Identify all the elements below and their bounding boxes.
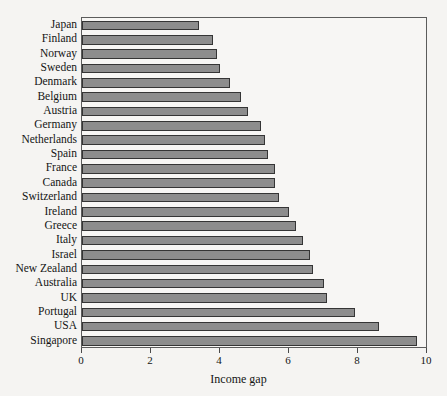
category-label: Ireland xyxy=(0,204,77,218)
x-axis-tick-label: 4 xyxy=(216,354,222,366)
category-label: Norway xyxy=(0,46,77,60)
x-axis-tick-label: 6 xyxy=(285,354,291,366)
category-label: Portugal xyxy=(0,304,77,318)
category-label: Switzerland xyxy=(0,189,77,203)
category-label: Sweden xyxy=(0,60,77,74)
category-label: Netherlands xyxy=(0,132,77,146)
x-axis-tick-label: 0 xyxy=(78,354,84,366)
category-label: Japan xyxy=(0,17,77,31)
category-label: Australia xyxy=(0,275,77,289)
x-axis-tick-label: 8 xyxy=(354,354,360,366)
category-label: New Zealand xyxy=(0,261,77,275)
category-label: Israel xyxy=(0,247,77,261)
category-label: Canada xyxy=(0,175,77,189)
category-label: Denmark xyxy=(0,74,77,88)
category-label: UK xyxy=(0,290,77,304)
x-axis: 0246810 Income gap xyxy=(0,348,447,396)
x-axis-tick xyxy=(288,348,289,353)
category-label: Italy xyxy=(0,232,77,246)
category-label: France xyxy=(0,160,77,174)
category-label: Austria xyxy=(0,103,77,117)
category-label: Finland xyxy=(0,31,77,45)
category-label: Germany xyxy=(0,117,77,131)
category-label: Greece xyxy=(0,218,77,232)
x-axis-tick-label: 2 xyxy=(147,354,153,366)
category-label: USA xyxy=(0,318,77,332)
x-axis-title: Income gap xyxy=(0,372,447,387)
x-axis-tick xyxy=(81,348,82,353)
x-axis-tick xyxy=(150,348,151,353)
category-label: Singapore xyxy=(0,333,77,347)
x-axis-tick-label: 10 xyxy=(421,354,432,366)
x-axis-tick xyxy=(219,348,220,353)
category-label: Belgium xyxy=(0,89,77,103)
x-axis-tick xyxy=(426,348,427,353)
category-label: Spain xyxy=(0,146,77,160)
category-labels: JapanFinlandNorwaySwedenDenmarkBelgiumAu… xyxy=(0,17,447,348)
x-axis-tick xyxy=(357,348,358,353)
x-axis-title-text: Income gap xyxy=(210,372,266,387)
income-gap-bar-chart: JapanFinlandNorwaySwedenDenmarkBelgiumAu… xyxy=(0,0,447,396)
